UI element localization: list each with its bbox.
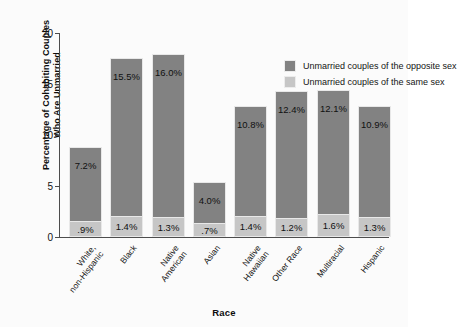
y-axis-tick-label: 0: [47, 232, 53, 243]
bar-group[interactable]: 7.2%.9%: [69, 147, 102, 237]
x-axis-category-text: Black: [118, 243, 139, 266]
bar-segment-same-sex[interactable]: 1.4%: [110, 216, 143, 237]
plot-area: 05101520 7.2%.9%15.5%1.4%16.0%1.3%4.0%.7…: [59, 33, 389, 238]
y-axis-tick-mark: [55, 237, 59, 238]
bar-segment-same-sex[interactable]: 1.3%: [358, 217, 391, 237]
bar-segment-opposite-sex[interactable]: 16.0%: [152, 54, 185, 217]
legend-color-swatch: [284, 76, 296, 88]
x-axis-category-text: Other Race: [269, 243, 304, 283]
x-axis-category-line: Asian: [201, 243, 222, 266]
legend-item[interactable]: Unmarried couples of the same sex: [284, 74, 457, 90]
x-axis-category-text: NativeAmerican: [151, 243, 189, 284]
bar-value-label: 4.0%: [194, 195, 225, 206]
y-axis-tick-label: 15: [42, 79, 53, 90]
y-axis-tick-mark: [55, 84, 59, 85]
bar-value-label: 10.9%: [359, 119, 390, 130]
bar-segment-opposite-sex[interactable]: 7.2%: [69, 147, 102, 220]
bar-group[interactable]: 10.8%1.4%: [234, 106, 267, 237]
bar-value-label: 1.3%: [359, 221, 390, 232]
bar-group[interactable]: 15.5%1.4%: [110, 58, 143, 237]
bar-value-label: 16.0%: [153, 67, 184, 78]
x-axis-category-text: Hispanic: [359, 243, 387, 275]
bar-value-label: .7%: [194, 224, 225, 235]
bar-segment-same-sex[interactable]: 1.3%: [152, 217, 185, 237]
y-axis-tick-label: 20: [42, 28, 53, 39]
bar-value-label: 1.2%: [276, 222, 307, 233]
bar-segment-same-sex[interactable]: 1.2%: [275, 218, 308, 237]
bar-segment-opposite-sex[interactable]: 4.0%: [193, 182, 226, 223]
y-axis-tick-label: 10: [42, 130, 53, 141]
bar-value-label: 1.4%: [111, 221, 142, 232]
bar-value-label: 12.1%: [318, 103, 349, 114]
bar-value-label: 1.6%: [318, 220, 349, 231]
x-axis-category-line: Other Race: [269, 243, 304, 283]
bar-segment-same-sex[interactable]: 1.6%: [317, 214, 350, 237]
legend-item-label: Unmarried couples of the opposite sex: [303, 61, 457, 71]
legend-item[interactable]: Unmarried couples of the opposite sex: [284, 58, 457, 74]
y-axis-tick-mark: [55, 33, 59, 34]
y-axis-tick-label: 5: [47, 181, 53, 192]
y-axis-tick-mark: [55, 186, 59, 187]
x-axis-category-text: White,non-Hispanic: [59, 243, 105, 294]
bar-value-label: 10.8%: [235, 119, 266, 130]
bar-value-label: .9%: [70, 223, 101, 234]
bar-segment-same-sex[interactable]: .7%: [193, 223, 226, 237]
legend-item-label: Unmarried couples of the same sex: [303, 77, 445, 87]
x-axis-category-line: Black: [118, 243, 139, 266]
bar-value-label: 12.4%: [276, 104, 307, 115]
x-axis-category-text: Multiracial: [314, 243, 345, 279]
bar-group[interactable]: 12.4%1.2%: [275, 91, 308, 237]
bar-segment-opposite-sex[interactable]: 12.1%: [317, 90, 350, 213]
x-axis-category-text: NativeHawaiian: [233, 243, 270, 283]
x-axis-category-line: Multiracial: [314, 243, 345, 279]
bar-group[interactable]: 12.1%1.6%: [317, 90, 350, 237]
bar-value-label: 1.4%: [235, 221, 266, 232]
bar-group[interactable]: 4.0%.7%: [193, 182, 226, 237]
bar-value-label: 7.2%: [70, 160, 101, 171]
x-axis-title: Race: [59, 307, 389, 318]
chart-legend: Unmarried couples of the opposite sexUnm…: [284, 58, 457, 90]
x-axis-category-text: Asian: [201, 243, 222, 266]
bar-value-label: 1.3%: [153, 221, 184, 232]
bar-group[interactable]: 10.9%1.3%: [358, 106, 391, 237]
bar-segment-same-sex[interactable]: .9%: [69, 221, 102, 237]
bar-segment-same-sex[interactable]: 1.4%: [234, 216, 267, 237]
y-axis-tick-mark: [55, 135, 59, 136]
bar-segment-opposite-sex[interactable]: 12.4%: [275, 91, 308, 217]
bar-segment-opposite-sex[interactable]: 10.9%: [358, 106, 391, 217]
x-axis-category-line: Hispanic: [359, 243, 387, 275]
bar-segment-opposite-sex[interactable]: 10.8%: [234, 106, 267, 216]
legend-color-swatch: [284, 60, 296, 72]
bar-segment-opposite-sex[interactable]: 15.5%: [110, 58, 143, 216]
bar-group[interactable]: 16.0%1.3%: [152, 54, 185, 237]
x-axis-spine: [59, 237, 389, 238]
bar-value-label: 15.5%: [111, 71, 142, 82]
y-axis-spine: [59, 33, 60, 238]
